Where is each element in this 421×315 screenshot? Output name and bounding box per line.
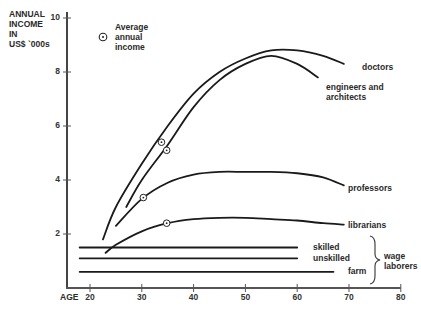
average-marker-icon [163,220,170,227]
brace-icon [370,236,380,284]
label-engineers: engineers and architects [326,82,384,102]
income-curves [80,50,344,272]
x-axis-label: AGE [60,292,78,302]
y-label-line: INCOME [9,19,50,29]
legend-line: Average [115,22,148,32]
axes [63,12,401,292]
wage-laborers-brace [370,236,380,284]
x-tick-label: 40 [184,292,204,302]
y-axis-label: ANNUAL INCOME IN US$ `000s [9,9,50,49]
legend-label: Average annual income [115,22,148,52]
y-tick-label: 6 [46,120,60,130]
label-wage-laborers: wage laborers [384,251,418,271]
x-tick-label: 70 [339,292,359,302]
y-tick-label: 2 [46,228,60,238]
y-tick-label: 10 [46,12,60,22]
average-markers [140,139,170,227]
y-label-line: US$ `000s [9,39,50,49]
y-tick-label: 8 [46,66,60,76]
average-marker-icon [163,147,170,154]
y-label-line: ANNUAL [9,9,50,19]
average-marker-icon [158,139,165,146]
legend: Average annual income [98,22,148,52]
legend-line: income [115,42,148,52]
x-tick-label: 20 [80,292,100,302]
label-librarians: librarians [348,220,386,230]
label-doctors: doctors [362,62,393,72]
label-engineers-line: engineers and [326,82,384,92]
curve-engineers-and-architects [126,56,318,207]
x-tick-label: 50 [235,292,255,302]
average-marker-icon [140,194,147,201]
x-tick-label: 60 [287,292,307,302]
legend-line: annual [115,32,148,42]
y-label-line: IN [9,29,50,39]
y-tick-label: 4 [46,174,60,184]
label-professors: professors [348,183,392,193]
x-tick-label: 30 [132,292,152,302]
x-tick-label: 80 [391,292,411,302]
label-wage-line: wage [384,251,418,261]
label-skilled: skilled [313,242,339,252]
circled-dot-icon [98,32,108,42]
label-wage-line: laborers [384,261,418,271]
label-engineers-line: architects [326,92,384,102]
label-farm: farm [348,266,366,276]
label-unskilled: unskilled [313,253,350,263]
